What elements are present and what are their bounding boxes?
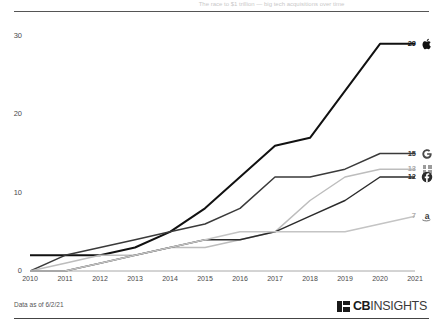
x-axis-tick-2014: 2014 xyxy=(153,275,187,282)
cb-insights-mark-icon xyxy=(337,301,350,312)
y-axis-tick-0: 0 xyxy=(2,266,22,275)
apple-logo-icon xyxy=(420,37,434,51)
endpoint-value-amazon: 7 xyxy=(400,211,416,220)
endpoint-value-apple: 29 xyxy=(400,39,416,48)
line-series-facebook xyxy=(30,177,415,271)
y-axis-tick-10: 10 xyxy=(2,188,22,197)
chart-title: The race to $1 trillion — big tech acqui… xyxy=(120,0,423,9)
x-axis-tick-2020: 2020 xyxy=(363,275,397,282)
amazon-logo-icon: a xyxy=(420,209,434,223)
x-axis-tick-2021: 2021 xyxy=(398,275,432,282)
cb-brand-light: INSIGHTS xyxy=(370,299,427,313)
cb-insights-wordmark: CBINSIGHTS xyxy=(353,299,427,313)
x-axis-tick-2018: 2018 xyxy=(293,275,327,282)
data-as-of-note: Data as of 6/2/21 xyxy=(14,301,64,308)
cb-brand-bold: CB xyxy=(353,299,370,313)
x-axis-tick-2012: 2012 xyxy=(83,275,117,282)
line-series-google xyxy=(30,154,415,272)
endpoint-value-facebook: 12 xyxy=(400,172,416,181)
x-axis-tick-2015: 2015 xyxy=(188,275,222,282)
svg-text:a: a xyxy=(425,211,430,221)
divider-bottom xyxy=(14,318,429,319)
x-axis-tick-2010: 2010 xyxy=(13,275,47,282)
google-logo-icon xyxy=(420,147,434,161)
x-axis-tick-2019: 2019 xyxy=(328,275,362,282)
facebook-logo-icon xyxy=(420,170,434,184)
x-axis-tick-2013: 2013 xyxy=(118,275,152,282)
endpoint-value-google: 15 xyxy=(400,149,416,158)
chart-card: The race to $1 trillion — big tech acqui… xyxy=(0,0,441,331)
x-axis-tick-2011: 2011 xyxy=(48,275,82,282)
divider-top xyxy=(14,11,429,12)
y-axis-tick-30: 30 xyxy=(2,31,22,40)
cb-insights-logo: CBINSIGHTS xyxy=(337,299,427,313)
line-series-apple xyxy=(30,44,415,256)
x-axis-tick-2016: 2016 xyxy=(223,275,257,282)
plot-area xyxy=(30,20,415,272)
x-axis-tick-2017: 2017 xyxy=(258,275,292,282)
line-series-group xyxy=(30,20,415,272)
y-axis-tick-20: 20 xyxy=(2,109,22,118)
